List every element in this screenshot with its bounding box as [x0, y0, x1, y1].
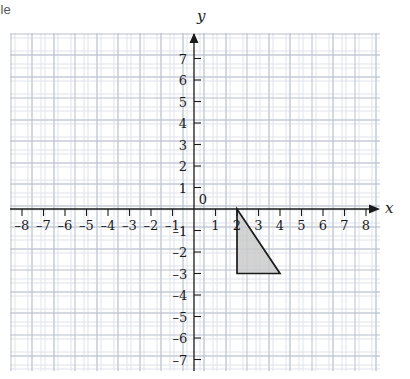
tick-label-x-neg8: –8: [15, 218, 30, 233]
graph-area: y x 0 –8 –7 –6 –5 –4 –3 –2 –1 1 2 3 4 5 …: [10, 33, 380, 371]
x-axis-arrow-icon: [369, 205, 380, 214]
tick-label-y-neg2: –2: [173, 245, 188, 260]
tick-label-x-1: 1: [211, 218, 219, 233]
tick-label-y-neg3: –3: [173, 266, 188, 281]
tick-label-y-5: 5: [179, 94, 187, 109]
tick-label-x-8: 8: [362, 218, 370, 233]
tick-label-y-6: 6: [179, 73, 187, 88]
tick-label-y-1: 1: [179, 180, 187, 195]
tick-label-y-neg1: –1: [173, 223, 188, 238]
x-axis-label: x: [385, 199, 393, 217]
tick-label-x-neg2: –2: [144, 218, 159, 233]
coordinate-grid-figure: gle: [0, 0, 410, 379]
tick-label-y-3: 3: [179, 137, 187, 152]
tick-label-x-7: 7: [340, 218, 348, 233]
tick-label-y-neg5: –5: [173, 309, 188, 324]
y-axis-label: y: [197, 7, 205, 25]
tick-label-x-3: 3: [254, 218, 262, 233]
tick-label-y-4: 4: [179, 116, 187, 131]
axes-and-shape-overlay: [10, 33, 380, 371]
y-axis-arrow-icon: [190, 33, 199, 43]
tick-label-y-neg6: –6: [173, 331, 188, 346]
tick-label-x-6: 6: [319, 218, 327, 233]
tick-label-x-neg5: –5: [79, 218, 94, 233]
tick-label-x-neg6: –6: [58, 218, 73, 233]
tick-label-y-neg4: –4: [173, 288, 188, 303]
tick-label-x-5: 5: [297, 218, 305, 233]
tick-label-y-neg7: –7: [173, 352, 188, 367]
tick-label-x-neg3: –3: [122, 218, 137, 233]
tick-label-x-2: 2: [233, 218, 241, 233]
tick-label-x-4: 4: [276, 218, 284, 233]
tick-label-origin: 0: [199, 192, 207, 207]
tick-label-y-7: 7: [179, 51, 187, 66]
tick-label-x-neg7: –7: [36, 218, 51, 233]
tick-label-y-2: 2: [179, 159, 187, 174]
figure-caption: gle: [0, 2, 11, 17]
tick-label-x-neg4: –4: [101, 218, 116, 233]
